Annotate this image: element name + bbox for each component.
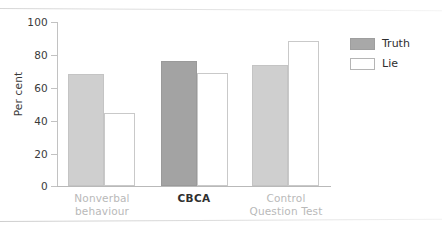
y-tick-label-100: 100 (6, 17, 48, 28)
y-tick-label-0-wrap: 0 (0, 181, 48, 192)
legend-swatch-lie-icon (350, 58, 375, 70)
bar-control-question-test-lie (288, 41, 319, 186)
bar-cbca-lie (197, 73, 228, 186)
y-tick-0 (51, 186, 57, 187)
category-label-control-question-test-line2: Question Test (238, 205, 334, 218)
x-axis-line (57, 186, 331, 187)
bar-control-question-test-truth (252, 65, 288, 186)
category-label-control-question-test-line1: Control (238, 192, 334, 205)
y-axis-title: Per cent (12, 59, 24, 129)
y-tick-40 (51, 121, 57, 122)
y-tick-label-0: 0 (6, 181, 48, 192)
grouped-bar-chart: 100 80 60 40 20 0 Per cent Nonverbal beh… (0, 0, 442, 232)
bar-nonverbal-truth (68, 74, 104, 186)
y-tick-label-80-wrap: 80 (0, 50, 48, 61)
category-label-nonverbal: Nonverbal behaviour (56, 192, 148, 217)
legend-label-lie: Lie (382, 58, 398, 69)
y-tick-80 (51, 55, 57, 56)
category-label-control-question-test: Control Question Test (238, 192, 334, 217)
y-tick-label-100-wrap: 100 (0, 17, 48, 28)
y-tick-20 (51, 154, 57, 155)
y-tick-label-20: 20 (6, 149, 48, 160)
category-label-nonverbal-line1: Nonverbal (56, 192, 148, 205)
chart-legend: Truth Lie (350, 36, 436, 76)
legend-item-lie: Lie (350, 56, 436, 71)
legend-label-truth: Truth (382, 38, 410, 49)
category-label-cbca: CBCA (150, 192, 238, 205)
y-tick-label-40-wrap: 40 (0, 116, 48, 127)
legend-swatch-truth-icon (350, 38, 375, 50)
bar-nonverbal-lie (104, 113, 135, 186)
bar-cbca-truth (161, 61, 197, 186)
y-tick-label-20-wrap: 20 (0, 149, 48, 160)
y-axis-line (57, 22, 58, 187)
category-label-nonverbal-line2: behaviour (56, 205, 148, 218)
legend-item-truth: Truth (350, 36, 436, 51)
y-tick-label-60-wrap: 60 (0, 83, 48, 94)
category-label-cbca-line1: CBCA (150, 192, 238, 205)
y-tick-60 (51, 88, 57, 89)
y-tick-100 (51, 22, 57, 23)
